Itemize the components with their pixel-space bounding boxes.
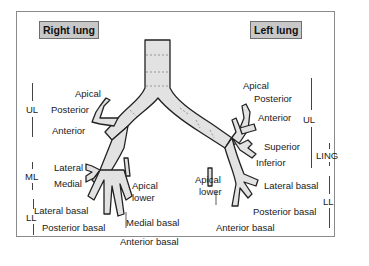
right-ml-label: ML: [25, 171, 38, 182]
left-posterior-label: Posterior: [254, 93, 292, 104]
left-lung-title: Left lung: [250, 21, 302, 39]
right-medial-basal-label: Medial basal: [126, 217, 179, 228]
right-upper-lobe-bronchus: [92, 98, 118, 126]
right-apical-lower-label-2: lower: [132, 192, 155, 203]
right-apical-lower-label-1: Apical: [132, 180, 158, 191]
left-anterior-label: Anterior: [258, 112, 291, 123]
right-medial-label: Medial: [54, 178, 82, 189]
left-apical-lower-label-2: lower: [199, 186, 222, 197]
left-apical-lower-label-1: Apical: [195, 174, 221, 185]
right-anterior-basal-label: Anterior basal: [120, 236, 179, 247]
right-posterior-basal-label: Posterior basal: [42, 222, 105, 233]
left-ll-label: LL: [323, 196, 334, 207]
right-posterior-label: Posterior: [51, 104, 89, 115]
left-ul-label: UL: [303, 114, 315, 125]
left-anterior-basal-label: Anterior basal: [216, 222, 275, 233]
left-ll-bracket: [329, 176, 330, 194]
left-ll-bracket-lower: [329, 208, 330, 228]
left-apical-label: Apical: [243, 80, 269, 91]
left-lateral-basal-label: Lateral basal: [264, 180, 318, 191]
right-lateral-label: Lateral: [54, 162, 83, 173]
right-ml-bracket: [32, 162, 33, 169]
right-anterior-label: Anterior: [52, 125, 85, 136]
left-inferior-label: Inferior: [256, 157, 286, 168]
left-ling-bracket-lower: [329, 162, 330, 166]
right-ul-bracket: [32, 83, 33, 101]
left-superior-label: Superior: [264, 141, 300, 152]
right-apical-label: Apical: [75, 88, 101, 99]
right-ul-bracket-lower: [32, 117, 33, 137]
left-posterior-basal-label: Posterior basal: [253, 206, 316, 217]
left-ling-bracket: [329, 143, 330, 149]
right-ll-bracket-lower: [33, 224, 34, 235]
right-lung-title: Right lung: [39, 21, 99, 39]
left-ul-bracket: [311, 78, 312, 110]
right-ml-bracket-lower: [32, 183, 33, 190]
left-ling-label: LING: [316, 150, 338, 161]
right-lateral-basal-label: Lateral basal: [34, 205, 88, 216]
left-ul-bracket-lower: [311, 127, 312, 168]
right-ul-label: UL: [26, 104, 38, 115]
